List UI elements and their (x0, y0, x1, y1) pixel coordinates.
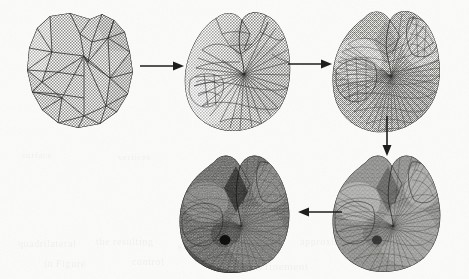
bleed-text-4: in Figure (44, 258, 86, 269)
arrow-stage-1-to-2 (140, 59, 186, 73)
bleed-text-1: the resulting (96, 236, 154, 247)
mesh-stage-4 (330, 152, 452, 274)
bleed-text-0: quadrilateral (18, 238, 76, 249)
arrow-stage-4-to-5 (296, 205, 342, 219)
mesh-stage-2 (182, 10, 302, 134)
mesh-stage-5 (176, 150, 302, 276)
figure-canvas: quadrilateralthe resultingsubdivision su… (0, 0, 469, 279)
bleed-text-9: vertices (118, 152, 151, 162)
surface-pit-detail (220, 235, 231, 245)
bleed-text-5: control (132, 256, 165, 267)
mesh-stage-1 (22, 12, 140, 130)
arrow-stage-2-to-3 (288, 57, 334, 71)
bleed-text-8: surface (22, 150, 52, 160)
surface-pit-detail (372, 236, 382, 245)
